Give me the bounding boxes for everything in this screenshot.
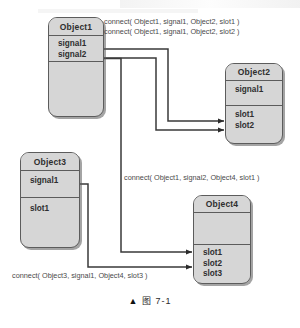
scan-artifact-secondary [38, 9, 198, 13]
object3-title-section: Object3 [21, 153, 79, 171]
object2-slot-2[interactable]: slot2 [226, 121, 282, 132]
object3-slot-1[interactable]: slot1 [21, 204, 79, 215]
figure-canvas: Object1 signal1 signal2 Object2 signal1 … [0, 0, 300, 328]
object3-signals-section: signal1 [21, 171, 79, 198]
object4-slot-2[interactable]: slot2 [194, 259, 250, 270]
connection-label-object3-signal1-object4-slot3: connect( Object3, signal1, Object4, slot… [12, 271, 147, 280]
object1-slots-section [49, 62, 103, 72]
object2-signal-1[interactable]: signal1 [226, 85, 282, 96]
scan-artifact [120, 0, 300, 8]
object-box-object4[interactable]: Object4 slot1 slot2 slot3 [193, 195, 251, 284]
caption-figure-word: 图 [142, 296, 152, 306]
caption-triangle-marker: ▲ [129, 296, 139, 306]
object4-slots-section: slot1 slot2 slot3 [194, 245, 250, 282]
object-box-object2[interactable]: Object2 signal1 slot1 slot2 [225, 63, 283, 144]
wire-object1-signal2-to-object4-slot1 [104, 59, 192, 253]
object1-title: Object1 [49, 21, 103, 33]
object3-title: Object3 [21, 156, 79, 168]
object2-title: Object2 [226, 66, 282, 78]
object4-title: Object4 [194, 198, 250, 210]
object3-signal-1[interactable]: signal1 [21, 176, 79, 187]
object1-signal-2[interactable]: signal2 [49, 50, 103, 61]
object4-title-section: Object4 [194, 196, 250, 213]
object1-title-section: Object1 [49, 18, 103, 36]
object4-slot-1[interactable]: slot1 [194, 248, 250, 259]
object2-title-section: Object2 [226, 64, 282, 81]
object2-signals-section: signal1 [226, 81, 282, 106]
object2-slot-1[interactable]: slot1 [226, 110, 282, 121]
wire-object3-signal1-to-object4-slot3 [80, 184, 192, 267]
object1-signals-section: signal1 signal2 [49, 36, 103, 62]
wire-object1-signal1-to-object2-slot1 [104, 49, 224, 121]
object3-slots-section: slot1 [21, 198, 79, 217]
figure-caption: ▲ 图 7-1 [0, 294, 300, 307]
object-box-object1[interactable]: Object1 signal1 signal2 [48, 17, 104, 117]
connection-label-object1-signal1-object2-slot1: connect( Object1, signal1, Object2, slot… [104, 17, 239, 26]
connection-label-object1-signal1-object2-slot2: connect( Object1, signal1, Object2, slot… [104, 27, 239, 36]
connection-label-object1-signal2-object4-slot1: connect( Object1, signal2, Object4, slot… [124, 173, 259, 182]
object4-signals-section [194, 213, 250, 245]
wire-object1-signal1-to-object2-slot2 [104, 58, 224, 130]
object-box-object3[interactable]: Object3 signal1 slot1 [20, 152, 80, 248]
caption-figure-number: 7-1 [155, 296, 171, 306]
object2-slots-section: slot1 slot2 [226, 106, 282, 133]
object4-slot-3[interactable]: slot3 [194, 269, 250, 280]
object1-signal-1[interactable]: signal1 [49, 39, 103, 50]
